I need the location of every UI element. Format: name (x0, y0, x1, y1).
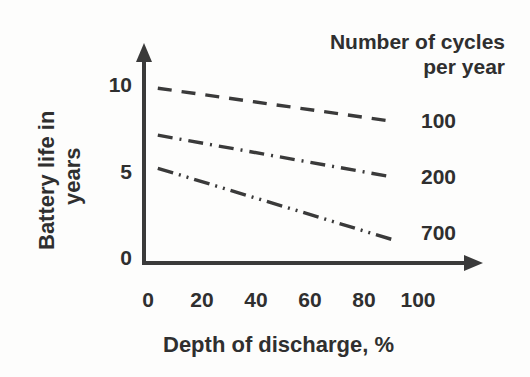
y-axis-title-line2: years (62, 147, 84, 205)
series-line-700 (158, 168, 393, 239)
x-tick-label-80: 80 (341, 289, 387, 310)
x-tick-label-0: 0 (125, 289, 171, 310)
series-label-200: 200 (421, 166, 456, 187)
series-label-100: 100 (421, 110, 456, 131)
x-axis-title: Depth of discharge, % (163, 334, 394, 356)
legend-title-line1: Number of cycles (305, 31, 505, 52)
series-line-200 (158, 135, 393, 177)
legend-title-line2: per year (305, 56, 505, 77)
x-axis-arrowhead (464, 255, 483, 271)
series-label-700: 700 (421, 222, 456, 243)
y-tick-label-10: 10 (88, 74, 132, 95)
x-tick-label-40: 40 (233, 289, 279, 310)
y-axis (136, 43, 152, 263)
x-tick-label-20: 20 (179, 289, 225, 310)
y-axis-arrowhead (136, 43, 152, 62)
x-tick-label-100: 100 (395, 289, 441, 310)
battery-life-chart: 10 5 0 0 20 40 60 80 100 Depth of discha… (0, 0, 530, 377)
y-axis-title-line1: Battery life in (36, 111, 58, 250)
x-axis (142, 255, 483, 271)
x-tick-label-60: 60 (287, 289, 333, 310)
y-tick-label-0: 0 (88, 247, 132, 268)
series-line-100 (158, 88, 393, 121)
y-tick-label-5: 5 (88, 161, 132, 182)
